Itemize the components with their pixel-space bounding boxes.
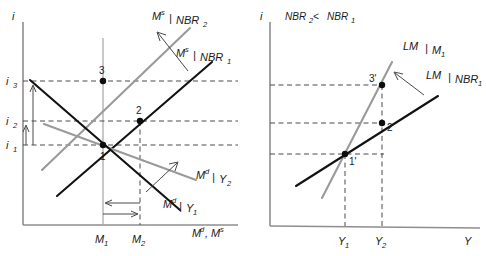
right-xtick-y2: Y 2 (375, 235, 387, 250)
label-money-demand-y2: M d | Y 2 (196, 167, 232, 188)
md-y2-bar: | (212, 171, 215, 183)
ytick-i3-base: i (6, 75, 9, 87)
lm-nbr1-cond: NBR (455, 73, 478, 85)
note-nbr2-base: NBR (285, 11, 306, 22)
left-xtick-m2: M 2 (132, 233, 146, 248)
label-money-supply-nbr1: M s | NBR 1 (176, 45, 231, 66)
arrow-m1-to-m2 (103, 211, 138, 217)
lm-nbr1-bar: | (448, 71, 451, 83)
md-y2-cond: Y (219, 173, 227, 185)
x-axis-label-comma: , (205, 227, 208, 239)
label-money-supply-nbr2: M s | NBR 2 (152, 8, 208, 29)
point-2prime-dot (379, 120, 385, 126)
left-ytick-i1: i 1 (6, 139, 17, 154)
lm-m1-cond-sub: 1 (441, 50, 445, 59)
label-lm-nbr1: LM | NBR 1 (426, 69, 482, 88)
x-axis-label-sup-s: s (220, 225, 224, 234)
left-xtick-m1: M 1 (95, 233, 108, 248)
lm-m1-bar: | (425, 42, 428, 54)
md-y1-cond-sub: 1 (193, 208, 197, 217)
economics-figure: 3 2 1 i i 3 i 2 i 1 M 1 (0, 0, 486, 256)
right-x-axis-label: Y (464, 235, 472, 247)
point-1prime-label: 1' (349, 156, 357, 167)
nbr-comparison-note: NBR 2 < NBR 1 (285, 11, 355, 25)
md-y2-cond-sub: 2 (226, 179, 232, 188)
figure-canvas: 3 2 1 i i 3 i 2 i 1 M 1 (0, 0, 486, 256)
ms-nbr1-cond-sub: 1 (227, 57, 231, 66)
right-x-axis (270, 226, 480, 228)
md-y1-bar: | (179, 200, 182, 212)
arrow-m2-to-m1 (105, 200, 140, 206)
arrow-i1-to-i2 (23, 125, 29, 145)
point-2-dot (137, 118, 143, 124)
left-ytick-i3: i 3 (6, 75, 18, 90)
curve-money-demand-y2 (44, 124, 196, 180)
xtick-m2-sub: 2 (140, 239, 146, 248)
left-x-axis-label: M d , M s (192, 225, 224, 239)
lm-m1-base: LM (403, 40, 419, 52)
ms-nbr1-cond: NBR (200, 51, 223, 63)
lm-nbr1-cond-sub: 1 (478, 79, 482, 88)
point-3-label: 3 (99, 65, 105, 76)
arrow-lm-shift (394, 72, 424, 95)
ms-nbr2-cond: NBR (176, 14, 199, 26)
ms-nbr1-sup: s (185, 45, 189, 54)
ytick-i1-base: i (6, 139, 9, 151)
ms-nbr1-bar: | (193, 49, 196, 61)
ytick-i2-base: i (6, 115, 9, 127)
lm-nbr1-base: LM (426, 69, 442, 81)
label-money-demand-y1: M d | Y 1 (163, 196, 197, 217)
label-lm-m1: LM | M 1 (403, 40, 445, 59)
note-nbr1-base: NBR (327, 11, 348, 22)
right-y-axis-label: i (260, 10, 263, 22)
ytick-i3-sub: 3 (13, 81, 18, 90)
arrow-i1-to-i3 (30, 85, 36, 145)
point-1-dot (100, 142, 106, 148)
ms-nbr2-bar: | (169, 12, 172, 24)
md-y1-sup: d (172, 196, 177, 205)
point-1-label: 1 (100, 151, 106, 162)
left-ytick-i2: i 2 (6, 115, 18, 130)
ms-nbr2-sup: s (161, 8, 165, 17)
point-1prime-dot (342, 151, 348, 157)
point-3prime-dot (379, 82, 385, 88)
point-2-label: 2 (136, 105, 142, 116)
md-y2-sup: d (205, 167, 210, 176)
left-panel: 3 2 1 i i 3 i 2 i 1 M 1 (6, 8, 238, 248)
point-3-dot (100, 78, 106, 84)
ms-nbr2-cond-sub: 2 (202, 20, 208, 29)
xtick-y1-sub: 1 (345, 241, 349, 250)
left-y-axis-label: i (12, 10, 15, 22)
right-xtick-y1: Y 1 (338, 235, 349, 250)
point-3prime-label: 3' (369, 73, 377, 84)
xtick-m1-sub: 1 (104, 239, 108, 248)
right-panel: 3' 2' 1' i Y NBR 2 < NBR 1 Y 1 Y 2 LM | … (260, 10, 482, 250)
xtick-y2-sub: 2 (381, 241, 387, 250)
note-relation: < (313, 11, 319, 22)
note-nbr1-sub: 1 (351, 16, 355, 25)
ytick-i2-sub: 2 (12, 121, 18, 130)
ytick-i1-sub: 1 (13, 145, 17, 154)
point-2prime-label: 2' (387, 122, 395, 133)
